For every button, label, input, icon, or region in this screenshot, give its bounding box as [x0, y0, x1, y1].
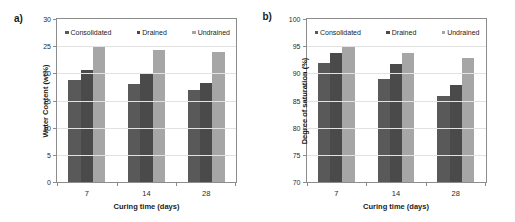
panel-b-y-tick-label: 90: [293, 70, 301, 77]
panel-b-bar: [318, 63, 330, 182]
panel-a-y-tick-label: 20: [43, 70, 51, 77]
panel-a-x-tick: [176, 182, 177, 186]
panel-a-y-tick-label: 15: [43, 97, 51, 104]
panel-b-bar: [330, 53, 342, 182]
panel-a-x-tick: [57, 182, 58, 186]
panel-b-y-tick-label: 80: [293, 124, 301, 131]
panel-b-x-tick-label: 7: [334, 189, 338, 198]
panel-a-y-tick: [53, 101, 57, 102]
panel-a-y-tick-label: 30: [43, 16, 51, 23]
panel-b-plot-area: Degree of saturation (%) Curing time (da…: [306, 18, 487, 183]
panel-a-x-axis-title: Curing time (days): [57, 202, 236, 211]
panel-a-x-tick-label: 7: [85, 189, 89, 198]
panel-a-x-tick-label: 14: [142, 189, 150, 198]
panel-b-x-axis-title: Curing time (days): [307, 202, 486, 211]
panel-b-gridline: [307, 101, 486, 102]
panel-b-gridline: [307, 73, 486, 74]
panel-a-y-tick-label: 25: [43, 43, 51, 50]
panel-a: a) Water Content (wt%) Curing time (days…: [0, 0, 258, 222]
panel-b-bar: [450, 85, 462, 182]
panel-a-bar: [153, 50, 165, 182]
panel-a-y-tick-label: 10: [43, 124, 51, 131]
panel-a-x-tick: [235, 182, 236, 186]
panel-a-x-tick: [117, 182, 118, 186]
panel-a-bar: [200, 83, 212, 182]
panel-a-x-tick-label: 28: [202, 189, 210, 198]
panel-a-bar: [81, 70, 93, 182]
panel-b-y-tick-label: 100: [289, 16, 301, 23]
panel-b-x-tick-label: 14: [392, 189, 400, 198]
panel-a-bar: [188, 90, 200, 182]
panel-b-bar: [342, 47, 354, 182]
panel-b-y-tick: [303, 73, 307, 74]
figure-container: a) Water Content (wt%) Curing time (days…: [0, 0, 515, 222]
panel-a-y-tick: [53, 128, 57, 129]
panel-b-y-tick: [303, 46, 307, 47]
panel-b-y-tick: [303, 19, 307, 20]
panel-a-y-tick: [53, 19, 57, 20]
panel-a-gridline: [57, 101, 236, 102]
panel-b-gridline: [307, 128, 486, 129]
panel-b-x-tick: [426, 182, 427, 186]
panel-b-y-tick: [303, 128, 307, 129]
panel-b-bar: [390, 64, 402, 182]
panel-b-x-tick: [485, 182, 486, 186]
panel-b-bar: [437, 96, 449, 182]
panel-a-y-tick-label: 5: [47, 151, 51, 158]
panel-a-gridline: [57, 155, 236, 156]
panel-b-y-tick-label: 95: [293, 43, 301, 50]
panel-b-y-tick: [303, 155, 307, 156]
panel-a-y-tick: [53, 73, 57, 74]
panel-a-y-tick: [53, 155, 57, 156]
panel-a-gridline: [57, 128, 236, 129]
panel-a-bar: [128, 84, 140, 182]
panel-a-plot-area: Water Content (wt%) Curing time (days) C…: [56, 18, 237, 183]
panel-b-x-tick: [307, 182, 308, 186]
panel-b-bar: [462, 58, 474, 182]
panel-a-bar: [68, 80, 80, 182]
panel-b-gridline: [307, 155, 486, 156]
panel-b-y-tick-label: 75: [293, 151, 301, 158]
panel-a-y-tick: [53, 46, 57, 47]
panel-b-y-tick: [303, 101, 307, 102]
panel-a-gridline: [57, 46, 236, 47]
panel-b-x-tick: [366, 182, 367, 186]
panel-a-gridline: [57, 73, 236, 74]
panel-a-bar: [93, 47, 105, 182]
panel-b-y-tick-label: 85: [293, 97, 301, 104]
panel-b-letter: b): [263, 11, 272, 22]
panel-a-y-tick-label: 0: [47, 179, 51, 186]
panel-b: b) Degree of saturation (%) Curing time …: [258, 0, 515, 222]
panel-a-letter: a): [14, 13, 23, 24]
panel-b-gridline: [307, 46, 486, 47]
panel-b-x-tick-label: 28: [451, 189, 459, 198]
panel-b-y-tick-label: 70: [293, 179, 301, 186]
panel-a-bar: [212, 52, 224, 182]
panel-b-bar: [378, 79, 390, 182]
